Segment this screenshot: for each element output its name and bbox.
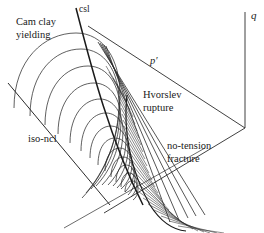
cam-clay-yield-loci-group [14, 33, 138, 200]
cam-clay-label-line2: yielding [16, 29, 50, 41]
hvorslev-label-line2: rupture [143, 102, 173, 114]
cam-clay-label-line1: Cam clay [16, 16, 56, 28]
q-label: q [251, 9, 257, 21]
yield-locus-2 [30, 49, 119, 193]
csl-label: csl [79, 4, 90, 15]
iso-ncl-label: iso-ncl [28, 133, 57, 145]
p-prime-label: p′ [150, 55, 158, 67]
soil-mechanics-state-boundary-diagram: Cam clay yielding csl p′ q Hvorslev rupt… [0, 0, 264, 233]
no-tension-label-line2: fracture [167, 153, 200, 165]
no-tension-label-line1: no-tension [167, 140, 211, 152]
hvorslev-rupture-fan-group [98, 42, 205, 222]
yield-locus-3 [45, 66, 120, 189]
iso-ncl-line [8, 83, 110, 205]
clipped-top-text [10, 0, 12, 4]
hvorslev-label-line1: Hvorslev [143, 89, 182, 101]
